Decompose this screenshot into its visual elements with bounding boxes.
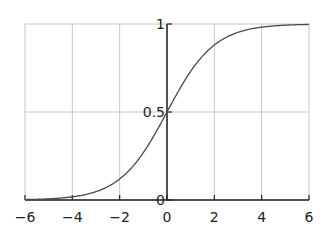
x-tick-label: −6	[15, 209, 36, 225]
x-tick-label: 6	[305, 209, 314, 225]
x-tick-label: 0	[163, 209, 172, 225]
x-tick-label: 2	[210, 209, 219, 225]
x-tick-labels: −6−4−20246	[15, 209, 314, 225]
x-tick-label: −4	[62, 209, 83, 225]
y-tick-label: 0	[156, 192, 165, 208]
y-tick-label: 1	[156, 16, 165, 32]
x-tick-label: 4	[257, 209, 266, 225]
y-tick-labels: 00.51	[143, 16, 165, 208]
x-tick-label: −2	[109, 209, 130, 225]
sigmoid-chart: −6−4−20246 00.51	[0, 0, 329, 232]
y-tick-label: 0.5	[143, 104, 165, 120]
